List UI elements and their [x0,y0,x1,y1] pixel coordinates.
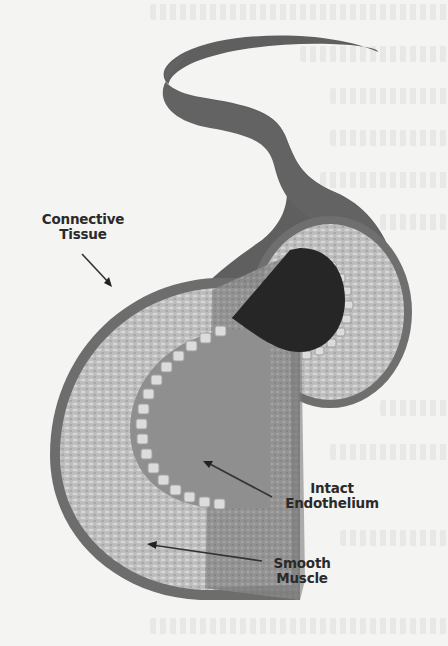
label-smooth-muscle: Smooth Muscle [262,556,342,586]
label-intact-endothelium: Intact Endothelium [272,481,392,511]
label-line: Tissue [28,227,138,242]
label-line: Muscle [262,571,342,586]
label-line: Smooth [262,556,342,571]
label-line: Intact [272,481,392,496]
artery-diagram [0,0,448,646]
label-line: Connective [28,212,138,227]
book-page: Connective Tissue Intact Endothelium Smo… [0,0,448,646]
label-line: Endothelium [272,496,392,511]
label-connective-tissue: Connective Tissue [28,212,138,242]
